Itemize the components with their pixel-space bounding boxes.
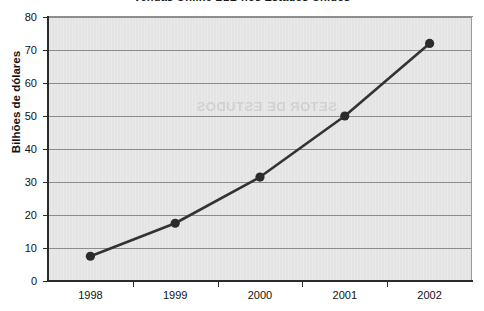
x-axis-tick-mark [387,281,388,287]
y-axis-tick-label: 10 [0,242,37,254]
x-axis-tick-label: 2001 [300,289,390,301]
gridline [48,248,472,249]
gridline [48,215,472,216]
y-axis-tick-label: 0 [0,275,37,287]
y-axis-tick-label: 80 [0,11,37,23]
x-axis-tick-mark [302,281,303,287]
x-axis-tick-mark [218,281,219,287]
y-axis-tick-label: 30 [0,176,37,188]
gridline [48,182,472,183]
gridline [48,149,472,150]
gridline [48,83,472,84]
y-axis-line [47,16,49,282]
chart-figure: Vendas Online B2B nos Estados Unidos Bil… [0,0,484,311]
plot-frame-right [471,16,472,282]
y-axis-tick-label: 20 [0,209,37,221]
y-axis-tick-label: 60 [0,77,37,89]
x-axis-line [47,280,473,282]
y-axis-tick-label: 50 [0,110,37,122]
chart-title: Vendas Online B2B nos Estados Unidos [0,0,484,3]
gridline [48,50,472,51]
y-axis-tick-label: 70 [0,44,37,56]
x-axis-tick-label: 1998 [45,289,135,301]
x-axis-tick-label: 1999 [130,289,220,301]
x-axis-tick-label: 2000 [215,289,305,301]
gridline [48,116,472,117]
x-axis-tick-label: 2002 [385,289,475,301]
gridline [48,17,472,18]
x-axis-tick-mark [133,281,134,287]
y-axis-tick-label: 40 [0,143,37,155]
plot-frame-top [47,16,473,17]
